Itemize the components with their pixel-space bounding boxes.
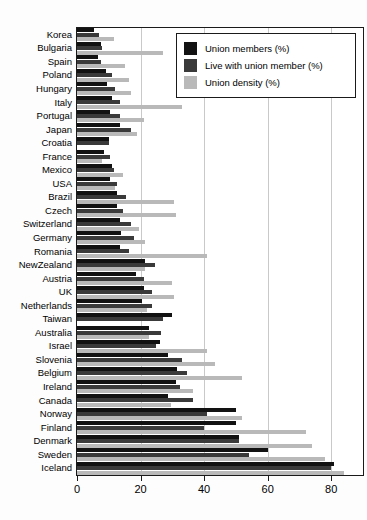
- bar: [77, 195, 126, 199]
- bar: [77, 272, 136, 276]
- bar: [77, 471, 344, 475]
- bar-group: [77, 272, 363, 286]
- bar: [77, 385, 180, 389]
- y-axis-label-newzealand: NewZealand: [0, 260, 72, 270]
- bar-group: [77, 245, 363, 259]
- legend-item-label: Union density (%): [205, 77, 280, 88]
- bar: [77, 155, 110, 159]
- bar-group: [77, 407, 363, 421]
- x-axis-tick-label: 80: [325, 483, 337, 495]
- bar-group: [77, 136, 363, 150]
- bar: [77, 222, 131, 226]
- bar: [77, 353, 168, 357]
- union-statistics-bar-chart: KoreaBulgariaSpainPolandHungaryItalyPort…: [0, 0, 367, 520]
- legend-item: Live with union member (%): [184, 57, 348, 74]
- legend-item: Union members (%): [184, 40, 348, 57]
- bar: [77, 114, 120, 118]
- x-axis-tick-label: 0: [74, 483, 80, 495]
- x-axis-tick: [268, 476, 269, 481]
- y-axis-label-croatia: Croatia: [0, 138, 72, 148]
- bar: [77, 317, 163, 321]
- y-axis-label-denmark: Denmark: [0, 436, 72, 446]
- bar: [77, 73, 112, 77]
- legend-swatch-light-icon: [184, 76, 197, 89]
- bar: [77, 55, 98, 59]
- bar: [77, 123, 120, 127]
- y-axis-label-uk: UK: [0, 287, 72, 297]
- y-axis-labels: KoreaBulgariaSpainPolandHungaryItalyPort…: [0, 28, 72, 475]
- bar: [77, 218, 120, 222]
- bar: [77, 408, 236, 412]
- y-axis-label-belgium: Belgium: [0, 368, 72, 378]
- bar: [77, 290, 152, 294]
- bar-group: [77, 448, 363, 462]
- bar: [77, 28, 94, 32]
- bar: [77, 326, 149, 330]
- x-axis-tick-label: 60: [262, 483, 274, 495]
- bar: [77, 42, 101, 46]
- y-axis-label-finland: Finland: [0, 423, 72, 433]
- bar-group: [77, 285, 363, 299]
- bar-group: [77, 204, 363, 218]
- bar: [77, 168, 114, 172]
- bar: [77, 462, 334, 466]
- bar: [77, 245, 120, 249]
- bar: [77, 82, 107, 86]
- bar: [77, 60, 101, 64]
- bar: [77, 448, 268, 452]
- x-axis-tick: [204, 476, 205, 481]
- bar-group: [77, 380, 363, 394]
- bar: [77, 69, 106, 73]
- bar: [77, 398, 193, 402]
- y-axis-label-italy: Italy: [0, 98, 72, 108]
- y-axis-label-iceland: Iceland: [0, 463, 72, 473]
- bar: [77, 421, 236, 425]
- bar: [77, 46, 102, 50]
- y-axis-label-germany: Germany: [0, 233, 72, 243]
- y-axis-label-switzerland: Switzerland: [0, 219, 72, 229]
- y-axis-label-mexico: Mexico: [0, 165, 72, 175]
- bar: [77, 344, 156, 348]
- bar: [77, 204, 117, 208]
- bar: [77, 263, 155, 267]
- bar: [77, 331, 161, 335]
- legend-item-label: Live with union member (%): [205, 60, 323, 71]
- bar: [77, 236, 134, 240]
- x-axis-tick: [331, 476, 332, 481]
- bar-group: [77, 191, 363, 205]
- bar-group: [77, 326, 363, 340]
- x-axis-tick-label: 20: [134, 483, 146, 495]
- bar-group: [77, 367, 363, 381]
- y-axis-label-france: France: [0, 152, 72, 162]
- y-axis-label-norway: Norway: [0, 409, 72, 419]
- y-axis-label-ireland: Ireland: [0, 382, 72, 392]
- bar: [77, 340, 160, 344]
- x-axis: 020406080: [0, 476, 367, 506]
- y-axis-label-korea: Korea: [0, 30, 72, 40]
- bar: [77, 137, 109, 141]
- bar-group: [77, 258, 363, 272]
- y-axis-label-japan: Japan: [0, 125, 72, 135]
- bar: [77, 33, 99, 37]
- bar-group: [77, 353, 363, 367]
- y-axis-label-poland: Poland: [0, 70, 72, 80]
- y-axis-label-taiwan: Taiwan: [0, 314, 72, 324]
- bar: [77, 128, 131, 132]
- bar: [77, 96, 112, 100]
- y-axis-label-australia: Australia: [0, 328, 72, 338]
- bar-group: [77, 150, 363, 164]
- bar-group: [77, 231, 363, 245]
- bar-group: [77, 421, 363, 435]
- legend-swatch-mid-icon: [184, 59, 197, 72]
- y-axis-label-romania: Romania: [0, 247, 72, 257]
- bar: [77, 249, 129, 253]
- bar: [77, 453, 249, 457]
- legend-item: Union density (%): [184, 74, 348, 91]
- bar-group: [77, 461, 363, 475]
- y-axis-label-austria: Austria: [0, 274, 72, 284]
- bar: [77, 110, 110, 114]
- bar: [77, 150, 104, 154]
- bar: [77, 164, 112, 168]
- bar: [77, 259, 145, 263]
- bar: [77, 304, 152, 308]
